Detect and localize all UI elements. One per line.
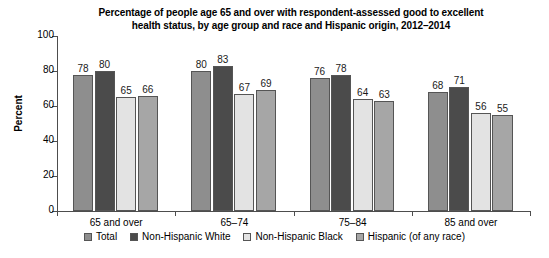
bar: 55 [492, 115, 512, 211]
bar-value-label: 80 [99, 59, 110, 70]
bar-value-label: 56 [475, 101, 486, 112]
bar: 83 [213, 66, 233, 211]
x-axis-tick-mark [530, 211, 531, 216]
bar: 65 [116, 97, 136, 211]
bar: 66 [138, 96, 158, 212]
x-axis-group-label: 65 and over [90, 217, 143, 228]
bar-value-label: 78 [336, 63, 347, 74]
plot-area: 020406080100 788065668083676976786463687… [57, 36, 530, 211]
legend-swatch [356, 233, 364, 241]
bar: 80 [95, 71, 115, 211]
bar: 78 [73, 75, 93, 212]
y-axis-tick-label: 0 [14, 204, 54, 215]
y-axis-tick-label: 60 [14, 99, 54, 110]
bar-value-label: 64 [357, 87, 368, 98]
y-axis-line [57, 36, 58, 211]
bar-value-label: 69 [260, 78, 271, 89]
bar: 69 [256, 90, 276, 211]
bar-value-label: 65 [121, 85, 132, 96]
bar-value-label: 78 [77, 63, 88, 74]
x-axis-group-label: 65–74 [220, 217, 248, 228]
bar-value-label: 63 [379, 89, 390, 100]
legend-label: Non-Hispanic Black [255, 231, 342, 242]
legend-label: Total [96, 231, 117, 242]
bar: 64 [353, 99, 373, 211]
x-axis-tick-mark [57, 211, 58, 216]
bar-value-label: 83 [217, 54, 228, 65]
chart-title-line-2: health status, by age group and race and… [132, 20, 450, 31]
bar: 56 [471, 113, 491, 211]
bar-value-label: 55 [497, 103, 508, 114]
chart-title: Percentage of people age 65 and over wit… [56, 6, 526, 32]
bar: 76 [310, 78, 330, 211]
legend-item[interactable]: Non-Hispanic Black [243, 231, 342, 242]
bar-value-label: 71 [454, 75, 465, 86]
y-axis-tick-label: 100 [14, 29, 54, 40]
x-axis-group-label: 85 and over [444, 217, 497, 228]
y-axis-tick-label: 20 [14, 169, 54, 180]
legend-swatch [243, 233, 251, 241]
chart-title-line-1: Percentage of people age 65 and over wit… [99, 7, 484, 18]
legend-swatch [130, 233, 138, 241]
bar: 80 [191, 71, 211, 211]
bar: 78 [331, 75, 351, 212]
legend: TotalNon-Hispanic WhiteNon-Hispanic Blac… [0, 231, 549, 242]
bar: 68 [428, 92, 448, 211]
legend-item[interactable]: Total [84, 231, 117, 242]
bar-value-label: 66 [142, 84, 153, 95]
legend-item[interactable]: Hispanic (of any race) [356, 231, 465, 242]
y-axis-tick-label: 80 [14, 64, 54, 75]
bar-value-label: 68 [432, 80, 443, 91]
x-axis-tick-mark [412, 211, 413, 216]
legend-label: Non-Hispanic White [142, 231, 230, 242]
x-axis-tick-mark [294, 211, 295, 216]
y-axis-tick-label: 40 [14, 134, 54, 145]
bar: 63 [374, 101, 394, 211]
legend-item[interactable]: Non-Hispanic White [130, 231, 230, 242]
bar: 71 [449, 87, 469, 211]
bar: 67 [234, 94, 254, 211]
x-axis-group-label: 75–84 [339, 217, 367, 228]
bar-value-label: 80 [196, 59, 207, 70]
x-axis-tick-mark [175, 211, 176, 216]
legend-swatch [84, 233, 92, 241]
legend-label: Hispanic (of any race) [368, 231, 465, 242]
bar-value-label: 67 [239, 82, 250, 93]
bar-value-label: 76 [314, 66, 325, 77]
